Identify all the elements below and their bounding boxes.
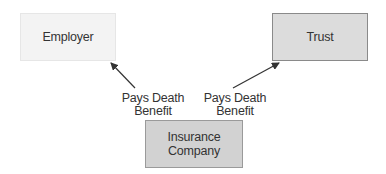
arrow-to-trust: [233, 63, 279, 88]
insurance-company-node: Insurance Company: [145, 120, 243, 168]
employer-node: Employer: [20, 13, 116, 61]
edge-label-line2: Benefit: [113, 105, 193, 118]
edge-label-line2: Benefit: [195, 105, 275, 118]
trust-node: Trust: [272, 13, 368, 61]
trust-label: Trust: [306, 30, 333, 44]
insurer-label-line2: Company: [167, 144, 220, 158]
arrow-to-employer: [111, 63, 135, 88]
edge-label-trust: Pays Death Benefit: [195, 92, 275, 118]
employer-label: Employer: [42, 30, 93, 44]
edge-label-employer: Pays Death Benefit: [113, 92, 193, 118]
insurer-label-line1: Insurance: [167, 130, 220, 144]
